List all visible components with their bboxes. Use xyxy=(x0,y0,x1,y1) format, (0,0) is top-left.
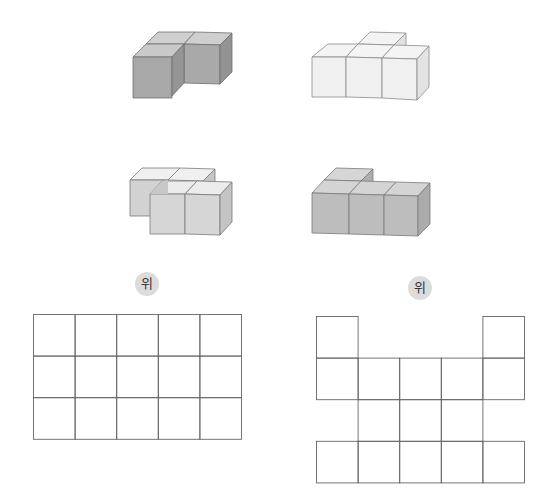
cube-shape-a-drawing xyxy=(130,30,240,90)
top-direction-label-right: 위 xyxy=(408,276,432,300)
block-figure-a xyxy=(130,30,240,90)
grid-cell xyxy=(483,317,525,359)
top-direction-label-left: 위 xyxy=(135,272,159,296)
grid-cell xyxy=(483,358,525,400)
grid-cell xyxy=(117,398,159,440)
cube-shape-d-drawing xyxy=(310,168,435,243)
grid-cell xyxy=(117,315,159,357)
grid-cell xyxy=(158,356,200,398)
grid-cell xyxy=(158,398,200,440)
grid-cell xyxy=(441,441,483,483)
grid-cell xyxy=(358,400,400,442)
cube-shape-b-drawing xyxy=(312,30,442,100)
grid-cell xyxy=(117,356,159,398)
grid-cell xyxy=(75,356,117,398)
grid-cell xyxy=(400,441,442,483)
grid-cell xyxy=(200,315,242,357)
block-figure-d xyxy=(310,168,435,243)
grid-cell xyxy=(317,358,359,400)
grid-cell xyxy=(400,400,442,442)
grid-cell xyxy=(158,315,200,357)
answer-grid-left xyxy=(33,314,243,444)
grid-cell xyxy=(34,315,76,357)
grid-cell xyxy=(34,398,76,440)
grid-cell xyxy=(358,358,400,400)
grid-cell xyxy=(358,441,400,483)
grid-cell xyxy=(317,441,359,483)
grid-cell xyxy=(75,398,117,440)
grid-cell xyxy=(317,317,359,359)
grid-cell xyxy=(34,356,76,398)
answer-grid-right xyxy=(316,316,526,486)
grid-cell xyxy=(441,400,483,442)
grid-cell xyxy=(400,358,442,400)
grid-cell xyxy=(75,315,117,357)
grid-cell xyxy=(200,356,242,398)
grid-cell xyxy=(200,398,242,440)
grid-cell xyxy=(441,358,483,400)
grid-left-lines xyxy=(33,314,243,444)
cube-shape-c-drawing xyxy=(128,166,240,241)
block-figure-b xyxy=(312,30,442,100)
grid-right-lines xyxy=(316,316,526,486)
block-figure-c xyxy=(128,166,240,241)
grid-cell xyxy=(483,441,525,483)
